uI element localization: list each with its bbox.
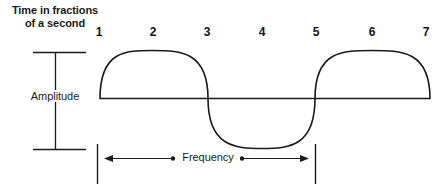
frequency-label: Frequency: [176, 151, 240, 163]
tick-number-7: 7: [416, 25, 436, 39]
tick-number-4: 4: [252, 25, 272, 39]
amplitude-label: Amplitude: [14, 90, 96, 102]
time-axis-caption-line1: Time in fractions: [12, 4, 98, 16]
sine-wave-path: [100, 51, 430, 149]
tick-number-3: 3: [197, 25, 217, 39]
tick-number-6: 6: [362, 25, 382, 39]
tick-number-1: 1: [89, 25, 109, 39]
frequency-dot-left: [171, 156, 175, 160]
waveform-figure: Time in fractions of a second 1 2 3 4 5 …: [0, 0, 438, 190]
tick-number-2: 2: [143, 25, 163, 39]
time-axis-caption-line2: of a second: [25, 17, 85, 29]
frequency-dot-right: [240, 156, 244, 160]
frequency-arrowhead-right: [300, 155, 309, 162]
tick-number-5: 5: [306, 25, 326, 39]
frequency-arrowhead-left: [104, 155, 113, 162]
